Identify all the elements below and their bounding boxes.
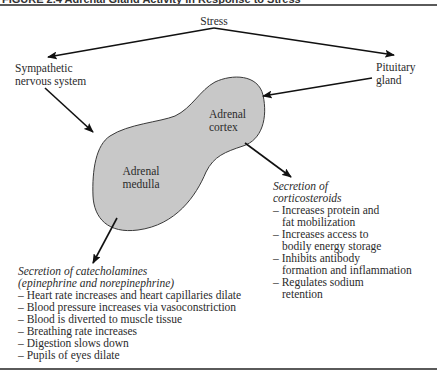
pituitary-label: Pituitary gland — [376, 61, 416, 86]
arrow-cortex-to-corticosteroids — [245, 143, 291, 177]
list-item: Digestion slows down — [18, 337, 241, 349]
corticosteroids-list: Increases protein andfat mobilization In… — [273, 204, 412, 300]
corticosteroids-block: Secretion of corticosteroids Increases p… — [273, 180, 412, 300]
catecholamines-title-1: Secretion of catecholamines — [18, 265, 241, 277]
list-item: Blood pressure increases via vasoconstri… — [18, 301, 241, 313]
pituitary-line-2: gland — [376, 74, 416, 87]
arrow-pituitary-to-cortex — [263, 78, 372, 96]
arrow-sympathetic-to-medulla — [45, 88, 93, 132]
arrow-stress-to-sympathetic — [48, 28, 214, 57]
arrow-stress-to-pituitary — [214, 28, 394, 55]
list-item: Blood is diverted to muscle tissue — [18, 313, 241, 325]
list-item: Inhibits antibodyformation and inflammat… — [273, 252, 412, 276]
sympathetic-label: Sympathetic nervous system — [15, 62, 86, 87]
cortex-line-1: Adrenal — [209, 108, 246, 121]
corticosteroids-title-2: corticosteroids — [273, 192, 412, 204]
stress-label: Stress — [194, 15, 234, 28]
medulla-line-2: medulla — [112, 178, 170, 191]
list-item: Increases protein andfat mobilization — [273, 204, 412, 228]
catecholamines-list: Heart rate increases and heart capillari… — [18, 289, 241, 361]
arrow-medulla-to-catecholamines — [93, 218, 117, 263]
list-item: Breathing rate increases — [18, 325, 241, 337]
sympathetic-line-1: Sympathetic — [15, 62, 86, 75]
corticosteroids-title-1: Secretion of — [273, 180, 412, 192]
list-item: Pupils of eyes dilate — [18, 349, 241, 361]
pituitary-line-1: Pituitary — [376, 61, 416, 74]
catecholamines-block: Secretion of catecholamines (epinephrine… — [18, 265, 241, 361]
sympathetic-line-2: nervous system — [15, 75, 86, 88]
list-item: Heart rate increases and heart capillari… — [18, 289, 241, 301]
cortex-line-2: cortex — [209, 121, 246, 134]
catecholamines-title-2: (epinephrine and norepinephrine) — [18, 277, 241, 289]
adrenal-gland-shape — [93, 77, 265, 231]
medulla-line-1: Adrenal — [112, 165, 170, 178]
adrenal-medulla-label: Adrenal medulla — [112, 165, 170, 190]
adrenal-cortex-label: Adrenal cortex — [209, 108, 246, 133]
list-item: Regulates sodiumretention — [273, 276, 412, 300]
list-item: Increases access tobodily energy storage — [273, 228, 412, 252]
